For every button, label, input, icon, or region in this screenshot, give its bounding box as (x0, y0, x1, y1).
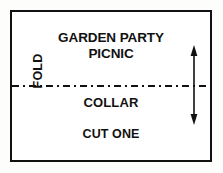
cut-instruction-label: CUT ONE (30, 127, 192, 141)
pattern-canvas: FOLD GARDEN PARTY PICNIC COLLAR CUT ONE (0, 0, 223, 173)
pattern-piece-name: COLLAR (30, 96, 192, 110)
double-headed-vertical-arrow-icon (185, 44, 203, 126)
dash-dot-line-icon (12, 85, 210, 87)
pattern-title-line-2: PICNIC (30, 47, 192, 61)
pattern-title-line-1: GARDEN PARTY (30, 31, 192, 45)
